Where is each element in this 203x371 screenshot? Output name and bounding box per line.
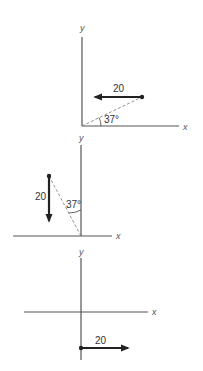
- x-axis-label: x: [115, 231, 121, 241]
- angle-label: 37°: [66, 199, 81, 210]
- diagram-3: y x 20: [24, 247, 157, 360]
- y-axis-label: y: [78, 247, 84, 257]
- diagram-1: y x 37° 20: [79, 23, 188, 132]
- y-axis-label: y: [78, 133, 84, 143]
- vector-origin-dot: [79, 346, 83, 350]
- vector-magnitude-label: 20: [113, 83, 125, 94]
- vector-magnitude-label: 20: [95, 335, 107, 346]
- x-axis-label: x: [182, 122, 188, 132]
- vector-magnitude-label: 20: [35, 191, 47, 202]
- angle-arc: [99, 118, 101, 127]
- angle-arc: [69, 210, 81, 213]
- diagram-2: y x 37° 20: [13, 133, 121, 241]
- angle-label: 37°: [104, 114, 119, 125]
- vector-origin-dot: [47, 174, 51, 178]
- vector-diagrams: y x 37° 20 y x 37° 20 y x 20: [0, 0, 203, 371]
- x-axis-label: x: [151, 307, 157, 317]
- y-axis-label: y: [79, 23, 85, 33]
- vector-origin-dot: [140, 95, 144, 99]
